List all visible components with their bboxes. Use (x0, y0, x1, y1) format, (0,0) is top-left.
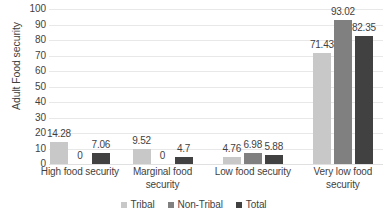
legend-item[interactable]: Non-Tribal (168, 200, 223, 210)
y-axis-tick: 30 (0, 113, 46, 123)
gridline (49, 87, 383, 88)
y-axis-tick: 20 (0, 128, 46, 138)
bar (244, 153, 262, 164)
data-label: 5.88 (256, 142, 292, 152)
data-label: 0 (62, 151, 98, 161)
legend-label: Tribal (131, 200, 155, 210)
gridline (49, 25, 383, 26)
gridline (49, 164, 383, 165)
bar (223, 157, 241, 164)
bar-chart: Adult Food security 10090807060504030201… (0, 0, 387, 221)
bar (355, 36, 373, 164)
legend-item[interactable]: Total (236, 200, 267, 210)
y-axis-tick: 100 (0, 4, 46, 14)
y-axis-tick-labels: 1009080706050403020100 (0, 0, 46, 221)
plot-area: 14.2807.069.5204.74.766.985.8871.4393.02… (49, 9, 383, 164)
bar (265, 155, 283, 164)
chart-legend: TribalNon-TribalTotal (0, 200, 387, 210)
y-axis-tick: 80 (0, 35, 46, 45)
y-axis-tick: 90 (0, 20, 46, 30)
data-label: 7.06 (83, 140, 119, 150)
legend-swatch-icon (121, 202, 127, 208)
x-axis-label: Low food security (213, 166, 293, 179)
legend-swatch-icon (168, 202, 174, 208)
x-axis-label: Very low food security (310, 166, 376, 191)
bar (313, 53, 331, 164)
legend-swatch-icon (236, 202, 242, 208)
x-axis-category-labels: High food securityMarginal food security… (49, 166, 383, 198)
data-label: 93.02 (325, 7, 361, 17)
y-axis-tick: 10 (0, 144, 46, 154)
x-axis-label: High food security (37, 166, 123, 179)
data-label: 82.35 (346, 23, 382, 33)
y-axis-tick: 70 (0, 51, 46, 61)
data-label: 9.52 (124, 136, 160, 146)
gridline (49, 71, 383, 72)
data-label: 71.43 (304, 40, 340, 50)
data-label: 14.28 (41, 129, 77, 139)
legend-label: Total (246, 200, 267, 210)
y-axis-tick: 60 (0, 66, 46, 76)
legend-item[interactable]: Tribal (121, 200, 155, 210)
y-axis-tick: 40 (0, 97, 46, 107)
x-axis-label: Marginal food security (132, 166, 194, 191)
gridline (49, 133, 383, 134)
legend-label: Non-Tribal (178, 200, 223, 210)
gridline (49, 118, 383, 119)
gridline (49, 102, 383, 103)
gridline (49, 56, 383, 57)
data-label: 4.7 (166, 144, 202, 154)
y-axis-tick: 50 (0, 82, 46, 92)
